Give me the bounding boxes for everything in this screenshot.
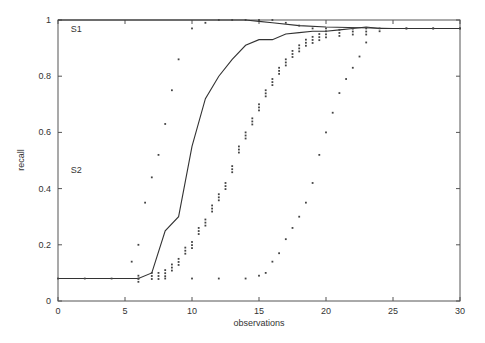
data-point [238,152,240,154]
data-point [218,199,220,201]
data-point [205,22,207,24]
data-point [245,135,247,137]
data-point [205,222,207,224]
data-point [305,39,307,41]
data-point [198,233,200,235]
data-point [365,34,367,36]
data-point [164,272,166,274]
data-point [272,84,274,86]
data-point [225,182,227,184]
data-point [258,19,260,21]
data-point [191,28,193,30]
data-point [265,92,267,94]
data-point [245,138,247,140]
data-point [151,275,153,277]
data-point [158,272,160,274]
data-point [272,81,274,83]
data-point [191,247,193,249]
y-tick-label: 1 [46,15,51,25]
data-point [138,244,140,246]
data-point [218,19,220,21]
recall-chart: 051015202530 00.20.40.60.81 observations… [0,0,485,343]
data-point [245,278,247,280]
data-point [225,185,227,187]
data-point [352,34,354,36]
data-point [131,261,133,263]
data-point [158,278,160,280]
data-point [312,42,314,44]
series-points-4 [138,28,368,283]
data-point [138,278,140,280]
data-point [352,67,354,69]
data-point [332,112,334,114]
data-point [205,219,207,221]
data-point [238,146,240,148]
data-point [151,272,153,274]
data-point [312,39,314,41]
y-tick-label: 0.4 [38,184,51,194]
series-points-2 [131,19,461,262]
data-point [231,165,233,167]
data-point [111,278,113,280]
data-point [298,47,300,49]
data-point [406,28,408,30]
data-point [231,168,233,170]
annotation-s1: S1 [71,24,82,34]
data-point [292,50,294,52]
data-point [211,211,213,213]
data-point [325,28,327,30]
data-point [379,30,381,32]
plot-frame [58,20,460,301]
data-point [258,275,260,277]
data-point [272,78,274,80]
data-point [305,202,307,204]
data-point [231,171,233,173]
data-point [365,42,367,44]
data-point [325,132,327,134]
data-point [339,29,341,31]
data-point [265,95,267,97]
x-tick-label: 15 [254,306,264,316]
data-point [218,196,220,198]
data-point [432,28,434,30]
data-point [151,176,153,178]
data-point [285,58,287,60]
data-point [218,278,220,280]
data-point [178,58,180,60]
data-point [298,25,300,27]
data-point [171,267,173,269]
data-point [171,264,173,266]
x-tick-label: 10 [187,306,197,316]
series-layer [57,19,461,283]
data-point [245,132,247,134]
x-tick-label: 5 [122,306,127,316]
data-point [359,56,361,58]
data-point [251,121,253,123]
data-point [218,193,220,195]
data-point [318,36,320,38]
data-point [352,31,354,33]
data-point [325,36,327,38]
data-point [365,31,367,33]
data-point [164,278,166,280]
data-point [251,124,253,126]
data-point [151,278,153,280]
data-point [171,270,173,272]
y-axis-label: recall [16,149,26,171]
data-point [352,28,354,30]
data-point [285,65,287,67]
data-point [345,78,347,80]
data-point [258,103,260,105]
data-point [285,238,287,240]
data-point [164,275,166,277]
y-tick-label: 0 [46,296,51,306]
data-point [272,261,274,263]
data-point [265,89,267,91]
data-point [325,30,327,32]
data-point [305,45,307,47]
data-point [211,205,213,207]
data-point [278,70,280,72]
data-point [191,244,193,246]
data-point [318,154,320,156]
x-tick-label: 20 [321,306,331,316]
